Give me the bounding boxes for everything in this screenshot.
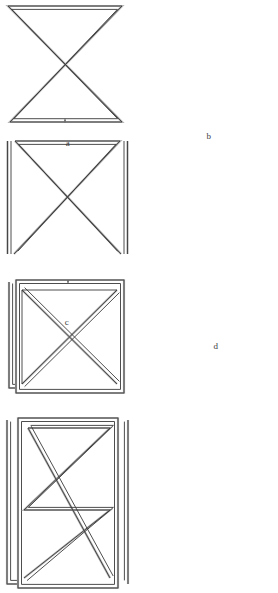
figd-left-offset-outer [7,420,18,584]
bowtie-figure-svg [0,0,130,134]
figure-d [0,408,134,593]
figure-c-label: c [57,317,77,327]
figure-a [0,0,130,134]
figd-long-diagonal-inner [31,426,113,576]
figd-long-diagonal-outer [28,428,110,578]
figure-b [0,134,132,268]
tall-rectangle-double-x-figure-svg [0,408,134,593]
figd-zigzag-shade [24,428,110,578]
figd-left-offset-shade [7,420,18,584]
figure-b-label: b [199,131,219,141]
figure-d-label: d [206,341,226,351]
figd-left-offset-inner [11,422,18,581]
bowtie-seam-dot [64,120,66,122]
rectangle-with-x-open-sides-figure-svg [0,134,132,268]
figc-seam-dot [67,281,69,283]
figure-c [0,268,134,408]
square-with-x-doubled-edge-figure-svg [0,268,134,408]
